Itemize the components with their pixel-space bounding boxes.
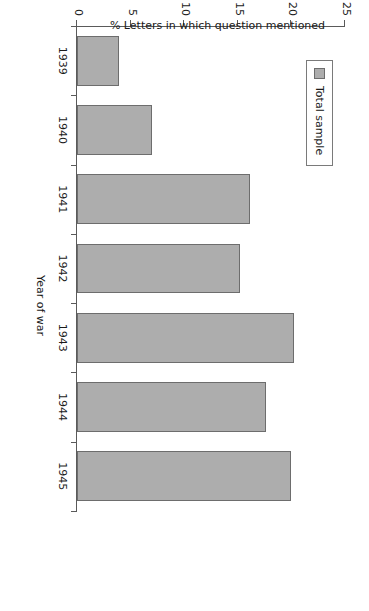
bar [77,382,266,432]
legend-label-total-sample: Total sample [313,86,326,155]
category-tick-label: 1943 [56,313,69,363]
bar [77,451,291,501]
bar [77,36,119,86]
category-tick-label: 1941 [56,174,69,224]
category-tick-label: 1940 [56,105,69,155]
category-tick-label: 1944 [56,382,69,432]
category-tick-label: 1939 [56,36,69,86]
bar [77,174,250,224]
category-tick [71,511,77,512]
category-tick-label: 1942 [56,244,69,294]
bar-chart: 0510152025 % Letters in which question m… [0,0,369,611]
rotated-figure-wrapper: 0510152025 % Letters in which question m… [0,0,369,611]
bar [77,105,152,155]
bar [77,313,294,363]
legend: Total sample [306,60,333,166]
category-axis-title: Year of war [34,0,47,611]
bar [77,244,240,294]
category-tick-label: 1945 [56,451,69,501]
plot-area [77,26,345,511]
legend-swatch-total-sample [314,68,325,79]
figure-page: 0510152025 % Letters in which question m… [0,0,369,611]
